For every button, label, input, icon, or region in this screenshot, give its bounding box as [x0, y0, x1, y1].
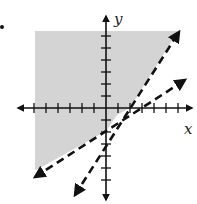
inequality-graph: y x [0, 0, 197, 204]
x-axis-label: x [184, 120, 193, 138]
y-axis-label: y [113, 10, 123, 28]
problem-bullet-dot [0, 25, 4, 29]
